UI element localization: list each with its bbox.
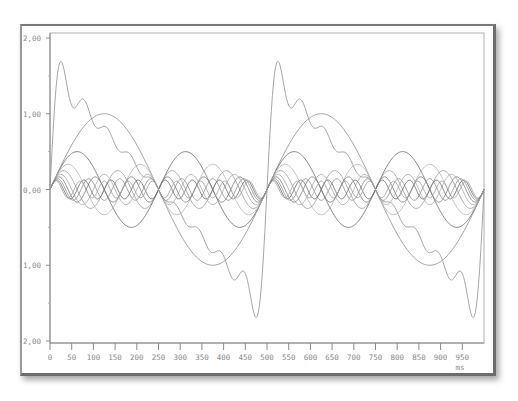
y-tick-label: 2,00 <box>23 34 42 43</box>
x-tick-label: 650 <box>325 353 339 362</box>
x-tick-label: 700 <box>347 353 361 362</box>
x-tick-label: 950 <box>456 353 470 362</box>
x-axis-unit-label: ms <box>455 363 464 372</box>
x-tick-label: 200 <box>130 353 144 362</box>
y-tick-label: 1,00 <box>23 110 42 119</box>
x-tick-label: 500 <box>260 353 274 362</box>
axes: 2,001,000,00-1,00-2,00050100150200250300… <box>18 33 484 362</box>
x-tick-label: 350 <box>195 353 209 362</box>
y-tick-label: -2,00 <box>18 337 41 346</box>
x-tick-label: 600 <box>304 353 318 362</box>
x-tick-label: 50 <box>67 353 77 362</box>
y-tick-label: 0,00 <box>23 186 42 195</box>
x-tick-label: 150 <box>108 353 122 362</box>
x-tick-label: 550 <box>282 353 296 362</box>
x-tick-label: 900 <box>434 353 448 362</box>
x-tick-label: 750 <box>369 353 383 362</box>
x-tick-label: 300 <box>173 353 187 362</box>
x-tick-label: 850 <box>412 353 426 362</box>
x-tick-label: 0 <box>48 353 53 362</box>
plot-lines <box>50 61 484 317</box>
x-tick-label: 800 <box>390 353 404 362</box>
x-tick-label: 400 <box>217 353 231 362</box>
line-chart: 2,001,000,00-1,00-2,00050100150200250300… <box>0 0 518 401</box>
x-tick-label: 450 <box>239 353 253 362</box>
x-tick-label: 250 <box>152 353 166 362</box>
y-tick-label: -1,00 <box>18 261 41 270</box>
x-tick-label: 100 <box>87 353 101 362</box>
